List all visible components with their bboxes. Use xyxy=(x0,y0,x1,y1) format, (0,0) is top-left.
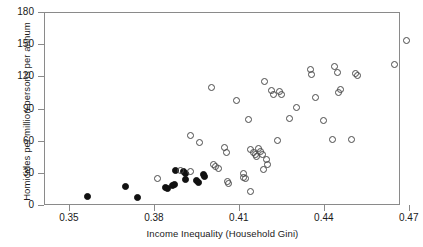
plot-frame xyxy=(44,12,400,205)
y-axis-tick xyxy=(38,76,44,77)
y-axis-tick-label: 30 xyxy=(0,168,34,178)
y-axis-tick-label: 120 xyxy=(0,71,34,81)
y-axis-tick xyxy=(38,205,44,206)
y-axis-tick xyxy=(38,109,44,110)
x-axis-tick xyxy=(324,205,325,211)
x-axis-tick-label: 0.41 xyxy=(219,213,259,223)
y-axis-tick xyxy=(38,44,44,45)
x-axis-tick-label: 0.38 xyxy=(134,213,174,223)
y-axis-tick xyxy=(38,12,44,13)
x-axis-tick xyxy=(239,205,240,211)
x-axis-tick-label: 0.44 xyxy=(304,213,344,223)
y-axis-tick-label: 180 xyxy=(0,7,34,17)
y-axis-tick-label: 90 xyxy=(0,104,34,114)
y-axis-tick xyxy=(38,141,44,142)
x-axis-title: Income Inequality (Household Gini) xyxy=(44,228,401,239)
x-axis-tick xyxy=(69,205,70,211)
x-axis-tick-label: 0.35 xyxy=(49,213,89,223)
y-axis-tick-label: 0 xyxy=(0,200,34,210)
x-axis-tick xyxy=(154,205,155,211)
y-axis-tick xyxy=(38,173,44,174)
x-axis-tick xyxy=(409,205,410,211)
data-point-open xyxy=(403,37,410,44)
y-axis-tick-label: 60 xyxy=(0,136,34,146)
y-axis-tick-label: 150 xyxy=(0,39,34,49)
x-axis-tick-label: 0.47 xyxy=(389,213,423,223)
